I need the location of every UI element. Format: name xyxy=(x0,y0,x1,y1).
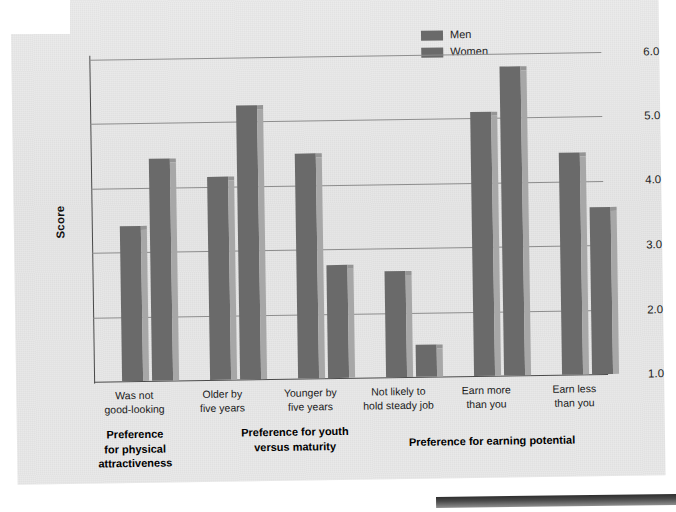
legend-swatch-men xyxy=(421,30,443,40)
x-category-5: Earn less than you xyxy=(516,382,632,411)
bar-men-3 xyxy=(385,271,408,378)
legend-item-men: Men xyxy=(421,26,488,44)
x-group-2-line1: Preference for earning potential xyxy=(367,432,617,450)
x-group-1-line2: versus maturity xyxy=(195,438,395,455)
bar-chart: Men Women Score 6.0 5.0 4.0 3.0 2.0 1.0 … xyxy=(10,0,665,485)
bar-side-shade xyxy=(316,157,325,378)
scanner-edge-artifact xyxy=(436,494,676,508)
bar-side-shade xyxy=(437,348,443,376)
bar-side-shade xyxy=(491,116,501,376)
bar-side-shade xyxy=(406,275,414,377)
gridline-6.0 xyxy=(89,52,601,61)
x-category-5-line2: than you xyxy=(516,395,632,410)
bar-side-shade xyxy=(347,269,355,378)
y-tick-1: 1.0 xyxy=(624,367,664,380)
bar-women-1 xyxy=(236,105,261,379)
y-tick-2: 2.0 xyxy=(623,303,663,316)
bar-side-shade xyxy=(611,210,619,374)
x-group-2: Preference for earning potential xyxy=(367,432,617,450)
bar-side-shade xyxy=(521,70,532,375)
y-tick-4: 4.0 xyxy=(621,173,661,186)
x-group-0: Preference for physical attractiveness xyxy=(77,426,194,471)
y-tick-6: 6.0 xyxy=(619,45,659,58)
bar-side-shade xyxy=(257,109,267,379)
bar-women-0 xyxy=(149,158,173,380)
y-axis-title: Score xyxy=(54,206,66,239)
bar-women-5 xyxy=(590,207,613,375)
x-group-1: Preference for youth versus maturity xyxy=(195,423,395,455)
bar-men-5 xyxy=(559,152,583,374)
bar-women-3 xyxy=(416,344,437,376)
bar-women-2 xyxy=(326,265,349,378)
x-group-0-line3: attractiveness xyxy=(77,455,193,471)
bar-women-4 xyxy=(499,66,525,375)
y-tick-5: 5.0 xyxy=(620,109,660,122)
bar-men-1 xyxy=(207,177,231,380)
bar-side-shade xyxy=(580,156,589,374)
bar-side-shade xyxy=(170,162,179,380)
legend-label-men: Men xyxy=(450,26,472,43)
bar-men-0 xyxy=(120,226,143,381)
bar-side-shade xyxy=(228,181,237,380)
bar-men-2 xyxy=(295,153,319,379)
plot-area xyxy=(89,52,606,382)
bar-men-4 xyxy=(470,112,495,376)
y-tick-3: 3.0 xyxy=(622,238,662,251)
